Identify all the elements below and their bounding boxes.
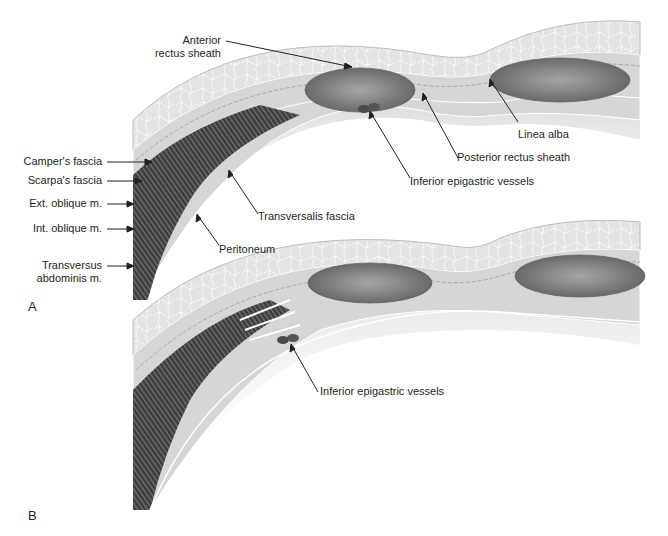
label-campers-fascia: Camper's fascia — [0, 155, 102, 168]
label-anterior-rectus-sheath-line2: rectus sheath — [140, 47, 221, 60]
label-transversus-line1: Transversus — [0, 259, 102, 272]
label-peritoneum: Peritoneum — [219, 243, 275, 256]
label-inferior-epigastric-vessels-b: Inferior epigastric vessels — [320, 385, 444, 398]
abdominal-wall-figure: Anterior rectus sheath Camper's fascia S… — [0, 0, 668, 536]
label-inferior-epigastric-vessels-a: Inferior epigastric vessels — [410, 175, 534, 188]
panel-letter-b: B — [28, 508, 37, 523]
label-scarpas-fascia: Scarpa's fascia — [0, 174, 102, 187]
label-transversus-line2: abdominis m. — [0, 272, 102, 285]
panel-letter-a: A — [28, 299, 37, 314]
label-linea-alba: Linea alba — [518, 128, 569, 141]
label-anterior-rectus-sheath-line1: Anterior — [165, 34, 221, 47]
label-transversalis-fascia: Transversalis fascia — [258, 210, 355, 223]
label-posterior-rectus-sheath: Posterior rectus sheath — [457, 151, 570, 164]
panel-b-illustration — [133, 220, 645, 515]
label-ext-oblique: Ext. oblique m. — [0, 197, 102, 210]
label-int-oblique: Int. oblique m. — [0, 222, 102, 235]
